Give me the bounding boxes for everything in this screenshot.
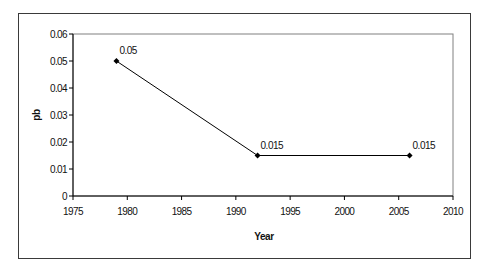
x-axis: 19751980198519901995200020052010: [63, 196, 464, 217]
x-axis-title: Year: [254, 231, 274, 242]
x-tick-label: 1980: [117, 206, 138, 217]
line-chart: 00.010.020.030.040.050.06 19751980198519…: [0, 0, 490, 272]
y-tick-label: 0.04: [50, 83, 68, 94]
data-label: 0.015: [261, 140, 284, 151]
y-tick-label: 0.03: [50, 110, 68, 121]
x-tick-label: 1985: [172, 206, 193, 217]
data-label: 0.015: [413, 140, 436, 151]
y-tick-label: 0.05: [50, 56, 68, 67]
plot-area: [73, 34, 453, 196]
x-tick-label: 1990: [226, 206, 247, 217]
y-tick-label: 0: [62, 191, 68, 202]
x-tick-label: 2010: [443, 206, 464, 217]
plot-border: [73, 34, 453, 196]
x-tick-label: 2000: [334, 206, 355, 217]
y-axis: 00.010.020.030.040.050.06: [50, 29, 73, 202]
x-tick-label: 1995: [280, 206, 301, 217]
data-label: 0.05: [119, 45, 137, 56]
y-tick-label: 0.06: [50, 29, 68, 40]
y-tick-label: 0.01: [50, 164, 68, 175]
x-tick-label: 2005: [389, 206, 410, 217]
y-axis-title: pb: [31, 109, 42, 121]
x-tick-label: 1975: [63, 206, 84, 217]
y-tick-label: 0.02: [50, 137, 68, 148]
